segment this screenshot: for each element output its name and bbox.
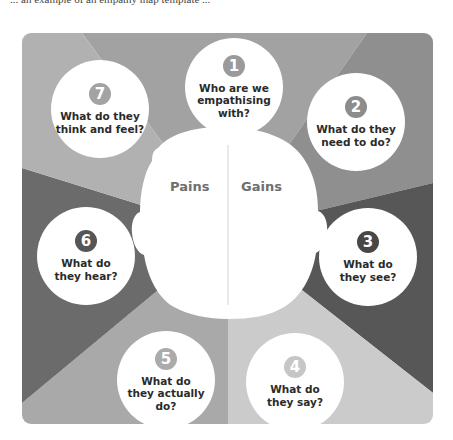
number-badge-2: 2 [345,96,367,118]
segment-7-think-feel: 7 What do they think and feel? [51,60,149,158]
number-badge-6: 6 [75,230,97,252]
number-badge-4: 4 [284,356,306,378]
gains-label: Gains [241,179,282,194]
empathy-map: Pains Gains 1 Who are we empathising wit… [22,33,433,424]
segment-4-say: 4 What do they say? [246,333,344,424]
segment-3-see: 3 What do they see? [319,208,417,306]
number-badge-1: 1 [223,55,245,77]
head-shape [132,127,327,319]
number-badge-5: 5 [155,348,177,370]
segment-6-hear: 6 What do they hear? [37,207,135,305]
number-badge-7: 7 [89,83,111,105]
number-badge-3: 3 [357,231,379,253]
segment-1-who: 1 Who are we empathising with? [185,38,283,136]
question-2: What do they need to do? [316,123,396,148]
question-7: What do they think and feel? [56,110,144,135]
question-4: What do they say? [267,383,323,408]
cropped-caption-text: ... an example of an empathy map templat… [10,0,443,5]
question-6: What do they hear? [54,257,117,282]
question-1: Who are we empathising with? [197,82,271,120]
segment-5-do: 5 What do they actually do? [117,331,215,424]
segment-2-need: 2 What do they need to do? [307,73,405,171]
pains-label: Pains [170,179,209,194]
question-3: What do they see? [340,258,397,283]
question-5: What do they actually do? [127,375,204,413]
